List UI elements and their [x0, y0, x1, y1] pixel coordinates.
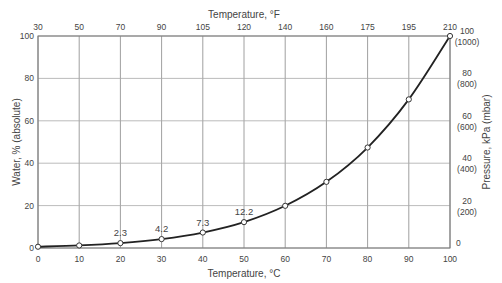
data-point-marker [200, 230, 205, 235]
x-axis-ticks-celsius: 0102030405060708090100 [36, 254, 458, 264]
x2-tick-label: 90 [157, 22, 167, 32]
x2-tick-label: 195 [402, 22, 416, 32]
x-tick-label: 60 [280, 254, 290, 264]
y2-tick-label: 0 [456, 238, 461, 248]
y2-tick-label: 80 [462, 68, 472, 78]
x-tick-label: 10 [74, 254, 84, 264]
data-point-marker [324, 179, 329, 184]
x-tick-label: 20 [116, 254, 126, 264]
data-point-marker [447, 33, 452, 38]
x-axis-ticks-fahrenheit: 30507090105120140160175195210 [33, 22, 457, 32]
x-tick-label: 100 [443, 254, 457, 264]
y-tick-label: 80 [25, 73, 35, 83]
x-axis-title-fahrenheit: Temperature, °F [208, 9, 280, 20]
x2-tick-label: 70 [116, 22, 126, 32]
x-tick-label: 0 [36, 254, 41, 264]
y2-tick-label: 20 [462, 196, 472, 206]
y2-tick-sublabel: (800) [457, 79, 477, 89]
x-tick-label: 80 [363, 254, 373, 264]
data-point-marker [118, 241, 123, 246]
data-annotations: 2.34.27.312.2 [114, 206, 253, 238]
x-tick-label: 50 [239, 254, 249, 264]
data-point-marker [77, 243, 82, 248]
y-tick-label: 20 [25, 201, 35, 211]
data-point-marker [283, 203, 288, 208]
y2-tick-label: 40 [462, 153, 472, 163]
y2-tick-label: 60 [462, 111, 472, 121]
data-point-marker [159, 236, 164, 241]
y2-tick-label: 100 [460, 26, 474, 36]
x2-tick-label: 175 [361, 22, 375, 32]
y-axis-title-left: Water, % (absolute) [11, 98, 22, 185]
x2-tick-label: 140 [278, 22, 292, 32]
y2-tick-sublabel: (600) [457, 122, 477, 132]
x2-tick-label: 30 [33, 22, 43, 32]
y2-tick-sublabel: (400) [457, 164, 477, 174]
y2-tick-sublabel: (200) [457, 207, 477, 217]
y-tick-label: 0 [29, 243, 34, 253]
x2-tick-label: 120 [237, 22, 251, 32]
data-point-marker [365, 145, 370, 150]
y-tick-label: 60 [25, 116, 35, 126]
y-tick-label: 100 [20, 31, 34, 41]
y-axis-title-right: Pressure, kPa (mbar) [481, 94, 492, 189]
x-tick-label: 90 [404, 254, 414, 264]
x-axis-title-celsius: Temperature, °C [208, 268, 281, 279]
y-tick-label: 40 [25, 158, 35, 168]
vapor-pressure-chart: 0102030405060708090100 30507090105120140… [0, 0, 502, 283]
data-point-marker [35, 244, 40, 249]
point-value-label: 7.3 [196, 217, 209, 228]
point-value-label: 12.2 [235, 206, 254, 217]
x2-tick-label: 105 [196, 22, 210, 32]
data-point-marker [406, 97, 411, 102]
x2-tick-label: 160 [319, 22, 333, 32]
x-tick-label: 30 [157, 254, 167, 264]
data-point-marker [241, 220, 246, 225]
y-axis-ticks-pressure: 020(200)40(400)60(600)80(800)100(1000) [455, 26, 480, 248]
x-tick-label: 40 [198, 254, 208, 264]
point-value-label: 4.2 [155, 223, 168, 234]
y2-tick-sublabel: (1000) [455, 37, 480, 47]
x2-tick-label: 50 [74, 22, 84, 32]
x2-tick-label: 210 [443, 22, 457, 32]
x-tick-label: 70 [322, 254, 332, 264]
point-value-label: 2.3 [114, 227, 127, 238]
